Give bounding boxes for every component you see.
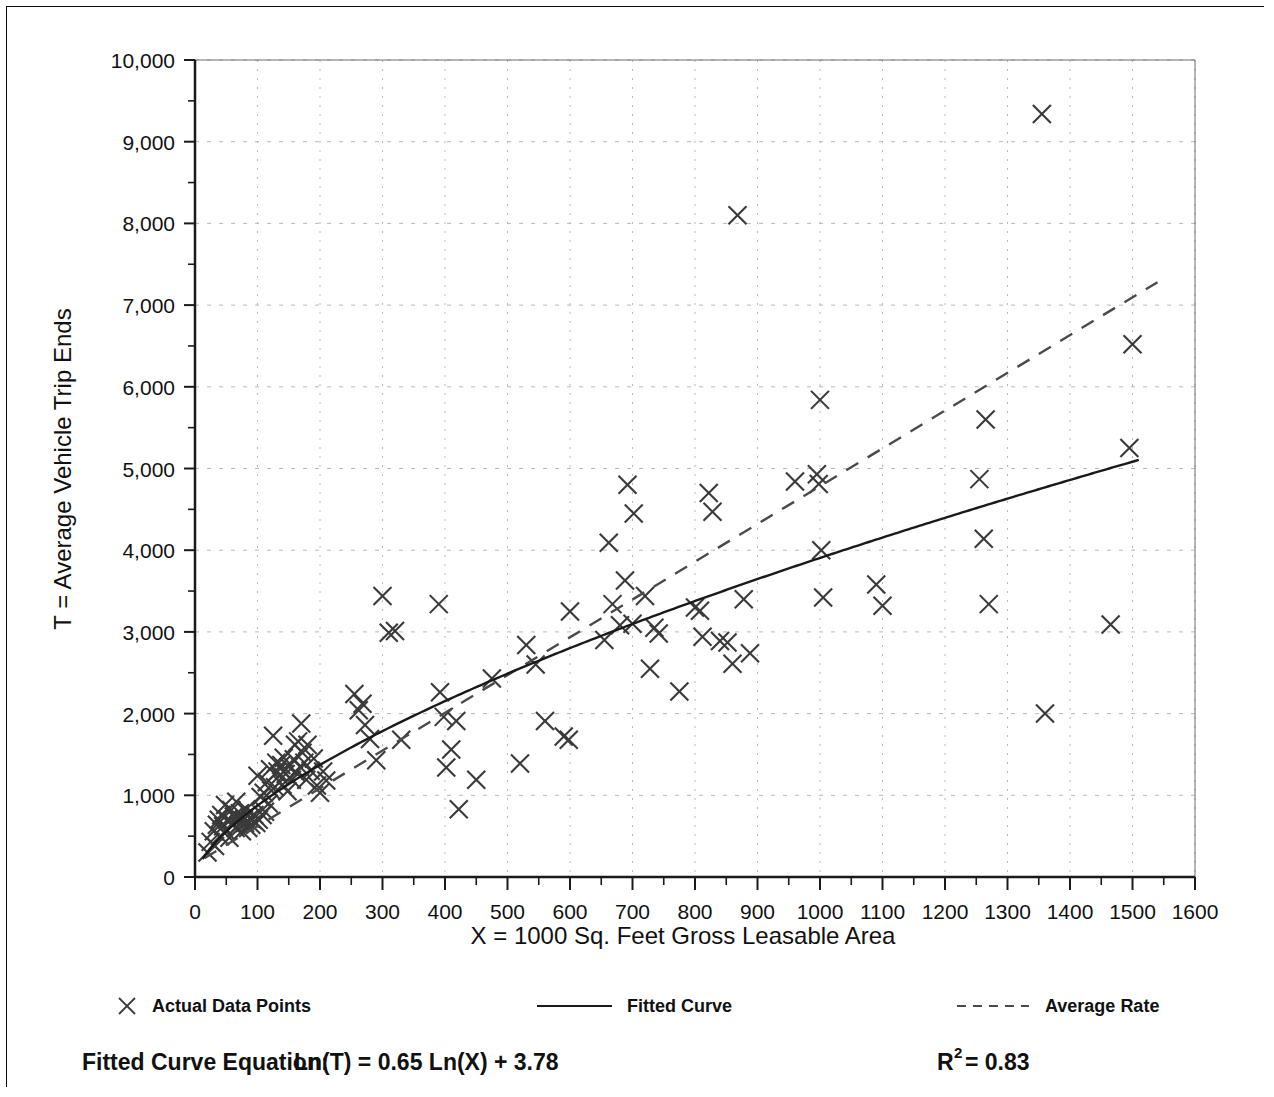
x-tick-label: 1100 bbox=[860, 900, 905, 923]
x-tick-label: 1300 bbox=[984, 900, 1031, 923]
x-tick-label: 1200 bbox=[922, 900, 969, 923]
x-tick-label: 1500 bbox=[1109, 900, 1156, 923]
y-tick-label: 0 bbox=[163, 866, 175, 889]
legend-label-average-rate: Average Rate bbox=[1045, 996, 1159, 1016]
x-tick-label: 0 bbox=[189, 900, 201, 923]
x-tick-label: 1600 bbox=[1172, 900, 1219, 923]
x-tick-label: 900 bbox=[740, 900, 775, 923]
fitted-curve-equation-text: Ln(T) = 0.65 Ln(X) + 3.78 bbox=[294, 1049, 559, 1075]
r-squared-value: = 0.83 bbox=[965, 1049, 1030, 1075]
y-tick-label: 1,000 bbox=[122, 784, 175, 807]
y-tick-label: 3,000 bbox=[122, 621, 175, 644]
y-tick-label: 5,000 bbox=[122, 458, 175, 481]
r-squared-exponent: 2 bbox=[954, 1044, 962, 1061]
x-tick-label: 1000 bbox=[797, 900, 844, 923]
scatter-chart: 01,0002,0003,0004,0005,0006,0007,0008,00… bbox=[7, 7, 1274, 1097]
x-tick-label: 400 bbox=[427, 900, 462, 923]
y-tick-label: 7,000 bbox=[122, 294, 175, 317]
fitted-curve-equation-label: Fitted Curve Equation: bbox=[82, 1049, 329, 1075]
r-squared-symbol: R bbox=[937, 1049, 954, 1075]
x-tick-label: 600 bbox=[552, 900, 587, 923]
legend-label-actual-data-points: Actual Data Points bbox=[152, 996, 311, 1016]
y-axis-title: T = Average Vehicle Trip Ends bbox=[49, 308, 76, 629]
y-tick-label: 6,000 bbox=[122, 376, 175, 399]
legend-label-fitted-curve: Fitted Curve bbox=[627, 996, 732, 1016]
figure-inner: 01,0002,0003,0004,0005,0006,0007,0008,00… bbox=[13, 13, 1257, 1080]
x-tick-label: 800 bbox=[677, 900, 712, 923]
y-tick-label: 2,000 bbox=[122, 703, 175, 726]
x-tick-label: 100 bbox=[240, 900, 275, 923]
y-tick-label: 9,000 bbox=[122, 131, 175, 154]
x-axis-title: X = 1000 Sq. Feet Gross Leasable Area bbox=[471, 922, 897, 949]
x-tick-label: 500 bbox=[490, 900, 525, 923]
x-tick-label: 300 bbox=[365, 900, 400, 923]
y-tick-label: 8,000 bbox=[122, 212, 175, 235]
figure-frame: 01,0002,0003,0004,0005,0006,0007,0008,00… bbox=[6, 6, 1264, 1087]
x-tick-label: 200 bbox=[302, 900, 337, 923]
y-tick-label: 10,000 bbox=[111, 49, 175, 72]
x-tick-label: 700 bbox=[615, 900, 650, 923]
x-tick-label: 1400 bbox=[1047, 900, 1094, 923]
y-tick-label: 4,000 bbox=[122, 539, 175, 562]
